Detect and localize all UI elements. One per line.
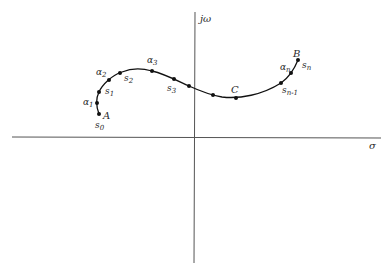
- point-s0: [97, 112, 101, 116]
- label-s0: s0: [95, 120, 105, 132]
- real-axis: [12, 137, 381, 138]
- s-plane-diagram: jω σ A s0 α1 s1 α2 s2 α3 s3 C B αn sn sn…: [0, 0, 386, 274]
- imag-axis-label: jω: [198, 13, 211, 24]
- label-C: C: [231, 84, 239, 95]
- label-A: A: [102, 110, 110, 121]
- point-s3: [172, 77, 176, 81]
- point-alpha2: [107, 78, 111, 82]
- point-p9: [211, 93, 215, 97]
- imaginary-axis: [194, 12, 195, 263]
- point-c: [234, 96, 238, 100]
- label-alpha2: α2: [96, 67, 107, 79]
- point-alpha1: [95, 101, 99, 105]
- label-s-n: sn: [302, 60, 312, 72]
- point-s1: [97, 90, 101, 94]
- label-alpha1: α1: [83, 97, 94, 109]
- label-B: B: [292, 48, 300, 59]
- real-axis-label: σ: [369, 140, 377, 151]
- point-p8: [187, 84, 191, 88]
- curve-points: [95, 58, 300, 116]
- label-s2: s2: [124, 73, 134, 85]
- label-alpha-n: αn: [280, 62, 291, 74]
- label-s3: s3: [167, 83, 177, 95]
- point-s2: [118, 71, 122, 75]
- label-alpha3: α3: [147, 55, 158, 67]
- label-s1: s1: [105, 86, 114, 98]
- point-alpha3: [150, 69, 154, 73]
- diagram-svg: jω σ A s0 α1 s1 α2 s2 α3 s3 C B αn sn sn…: [0, 0, 386, 274]
- contour-curve: [97, 60, 298, 114]
- label-s-n-minus-1: sn-1: [282, 85, 298, 97]
